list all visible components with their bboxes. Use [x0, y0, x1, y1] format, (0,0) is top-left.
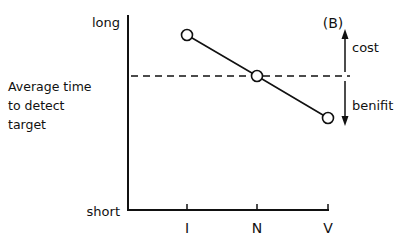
benefit-arrow-icon: [342, 116, 349, 126]
y-axis-long-label: long: [92, 15, 120, 30]
x-tick-label-N: N: [252, 220, 262, 236]
data-point-V: [323, 113, 334, 124]
x-tick-label-V: V: [323, 220, 333, 236]
data-point-N: [252, 71, 263, 82]
benefit-label: benifit: [352, 98, 393, 113]
panel-label: (B): [323, 15, 344, 31]
chart-canvas: long short I N V (B) cost benifit: [0, 0, 405, 240]
x-tick-label-I: I: [185, 220, 189, 236]
data-point-I: [182, 30, 193, 41]
y-axis-short-label: short: [87, 204, 120, 219]
cost-label: cost: [352, 40, 379, 55]
